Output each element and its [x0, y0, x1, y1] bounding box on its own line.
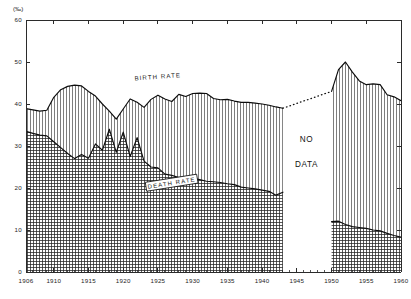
x-tick-label-1950: 1950: [324, 277, 339, 284]
birth-rate-gap-connector: [283, 91, 332, 108]
y-tick-label-40: 40: [15, 100, 23, 107]
x-tick-label-1960: 1960: [394, 277, 409, 284]
x-tick-label-1945: 1945: [289, 277, 304, 284]
y-tick-label-20: 20: [15, 184, 23, 191]
y-tick-label-0: 0: [18, 268, 22, 275]
plot-area: [26, 62, 401, 272]
no-data-label-line1: NO: [300, 135, 313, 144]
y-tick-label-60: 60: [15, 16, 23, 23]
x-tick-label-1930: 1930: [185, 277, 200, 284]
y-tick-label-30: 30: [15, 142, 23, 149]
x-tick-label-1955: 1955: [359, 277, 374, 284]
x-tick-label-1910: 1910: [46, 277, 61, 284]
x-tick-label-1935: 1935: [220, 277, 235, 284]
birth-death-rate-chart: 0102030405060 19061910191519201925193019…: [0, 0, 411, 299]
x-tick-label-1915: 1915: [81, 277, 96, 284]
no-data-label-line2: DATA: [295, 160, 318, 169]
y-axis-unit-label: (‰): [13, 5, 23, 12]
y-tick-label-10: 10: [15, 226, 23, 233]
birth-rate-label: BIRTH RATE: [134, 71, 181, 81]
y-tick-label-50: 50: [15, 58, 23, 65]
x-tick-label-1920: 1920: [116, 277, 131, 284]
chart-root: 0102030405060 19061910191519201925193019…: [0, 0, 411, 299]
x-tick-label-1925: 1925: [151, 277, 166, 284]
x-tick-label-1940: 1940: [255, 277, 270, 284]
birth-rate-area-postwar: [332, 62, 401, 237]
x-tick-label-1906: 1906: [19, 277, 34, 284]
